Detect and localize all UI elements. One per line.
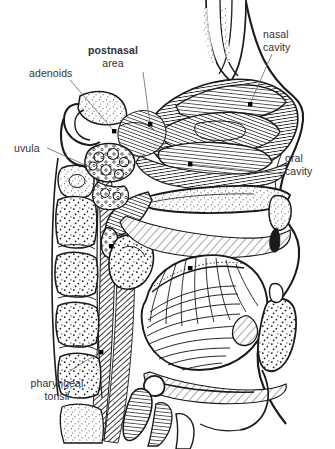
marker-oropharynx — [99, 350, 103, 354]
label-oral-cavity-line1: oral — [285, 152, 303, 164]
label-nasal-cavity-line1: nasal — [263, 28, 289, 40]
label-nasal-cavity: nasal cavity — [263, 28, 290, 53]
marker-nasal-cavity — [248, 102, 252, 106]
label-adenoids-line1: adenoids — [29, 67, 72, 79]
marker-oral-cavity — [188, 162, 192, 166]
marker-tongue-base — [188, 266, 192, 270]
anatomical-figure: postnasal area nasal cavity adenoids uvu… — [0, 0, 335, 449]
label-uvula-line1: uvula — [14, 142, 40, 154]
label-adenoids: adenoids — [29, 67, 72, 80]
label-postnasal-area-line2: area — [82, 57, 144, 70]
label-pharyngeal-tonsil: pharyngeal tonsil — [24, 377, 90, 402]
label-uvula: uvula — [14, 142, 40, 155]
label-postnasal-area: postnasal area — [82, 44, 144, 69]
label-postnasal-area-line1: postnasal — [88, 44, 138, 56]
marker-postnasal-area — [148, 122, 152, 126]
marker-adenoids — [112, 129, 116, 133]
label-pharyngeal-tonsil-line1: pharyngeal — [31, 377, 84, 389]
label-oral-cavity-line2: cavity — [285, 165, 312, 178]
marker-pharynx-mid — [109, 244, 113, 248]
label-oral-cavity: oral cavity — [285, 152, 312, 177]
label-pharyngeal-tonsil-line2: tonsil — [24, 390, 90, 403]
label-nasal-cavity-line2: cavity — [263, 41, 290, 54]
